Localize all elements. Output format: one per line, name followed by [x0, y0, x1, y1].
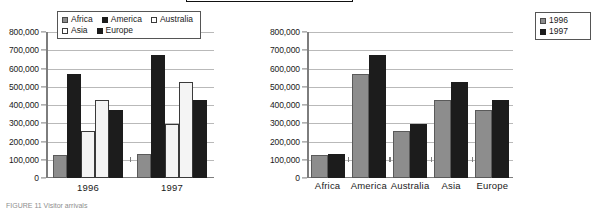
y-axis-tick-label: 300,000 [270, 118, 300, 128]
legend-swatch-icon-1996 [540, 18, 546, 24]
bar-1997-africa [328, 154, 345, 178]
x-axis-label: 1997 [130, 182, 214, 193]
x-axis-label: 1996 [46, 182, 130, 193]
legend-label-asia: Asia [71, 25, 88, 36]
y-axis-tick-label: 200,000 [9, 137, 39, 147]
legend-row-1: Africa America Australia [62, 14, 196, 25]
legend-label-1996: 1996 [549, 15, 568, 26]
legend-swatch-icon-africa [62, 17, 68, 23]
plot-area-left [46, 32, 214, 178]
x-axis-label: Europe [472, 180, 513, 191]
y-axis-tick-label: 600,000 [9, 64, 39, 74]
x-axis-separator-tick [431, 157, 432, 162]
legend-item-1997: 1997 [540, 26, 586, 37]
chart-grouped-by-year: 800,000700,000600,000500,000400,000300,0… [0, 0, 269, 211]
bar-1996-australia [393, 131, 410, 178]
bar-1997-asia [451, 82, 468, 178]
plot-area-right [307, 32, 513, 178]
bar-1997-australia [410, 124, 427, 178]
x-axis-labels-left: 19961997 [46, 182, 214, 193]
legend-swatch-icon-america [102, 17, 108, 23]
legend-item-africa: Africa [62, 14, 93, 25]
legend-label-america: America [111, 14, 142, 25]
legend-row-2: Asia Europe [62, 25, 196, 36]
bar-america-1997 [151, 55, 165, 178]
y-axis-tick-label: 600,000 [270, 64, 300, 74]
bar-group [46, 32, 130, 178]
figure-caption: FIGURE 11 Visitor arrivals [6, 202, 206, 211]
y-axis-tick-label: 500,000 [270, 82, 300, 92]
bar-europe-1997 [193, 100, 207, 178]
y-axis-tick-label: 200,000 [270, 137, 300, 147]
y-axis-tick-label: 0 [34, 173, 39, 183]
y-axis-tick-label: 700,000 [270, 45, 300, 55]
bar-africa-1997 [137, 154, 151, 178]
x-axis-labels-right: AfricaAmericaAustraliaAsiaEurope [307, 180, 513, 191]
bar-group [348, 32, 389, 178]
bars-right [307, 32, 513, 178]
x-axis-separator-tick [389, 157, 390, 162]
bar-1997-europe [492, 100, 509, 178]
y-axis-tick-label: 400,000 [270, 100, 300, 110]
y-axis-tick-label: 400,000 [9, 100, 39, 110]
legend-left: Africa America Australia Asia Europe [57, 11, 201, 39]
x-axis-label: Africa [307, 180, 348, 191]
bar-1997-america [369, 55, 386, 178]
y-axis-left: 800,000700,000600,000500,000400,000300,0… [0, 32, 46, 178]
bar-america-1996 [67, 74, 81, 178]
bar-1996-africa [311, 155, 328, 178]
x-axis-separator-tick [472, 157, 473, 162]
x-axis-label: Asia [431, 180, 472, 191]
bar-asia-1996 [95, 100, 109, 178]
bar-group [130, 32, 214, 178]
y-axis-tick-label: 800,000 [9, 27, 39, 37]
y-axis-tick-label: 300,000 [9, 118, 39, 128]
bar-1996-asia [434, 100, 451, 178]
bar-group [472, 32, 513, 178]
legend-item-1996: 1996 [540, 15, 586, 26]
legend-item-europe: Europe [97, 25, 133, 36]
legend-label-australia: Australia [160, 14, 193, 25]
bar-asia-1997 [179, 82, 193, 178]
y-axis-tick-label: 100,000 [9, 155, 39, 165]
legend-label-europe: Europe [106, 25, 133, 36]
x-axis-label: Australia [389, 180, 430, 191]
y-axis-tick-label: 0 [295, 173, 300, 183]
y-axis-tick-label: 100,000 [270, 155, 300, 165]
bar-group [431, 32, 472, 178]
legend-label-africa: Africa [71, 14, 93, 25]
x-axis-label: America [348, 180, 389, 191]
y-axis-tick-label: 500,000 [9, 82, 39, 92]
legend-swatch-icon-asia [62, 28, 68, 34]
legend-swatch-icon-1997 [540, 29, 546, 35]
x-axis-separator-tick [348, 157, 349, 162]
legend-item-australia: Australia [151, 14, 193, 25]
legend-right: 1996 1997 [535, 12, 591, 40]
legend-item-america: America [102, 14, 142, 25]
legend-label-1997: 1997 [549, 26, 568, 37]
legend-swatch-icon-australia [151, 17, 157, 23]
bar-australia-1997 [165, 124, 179, 178]
bar-australia-1996 [81, 131, 95, 178]
bar-1996-america [352, 74, 369, 178]
legend-item-asia: Asia [62, 25, 88, 36]
bar-europe-1996 [109, 110, 123, 178]
bar-africa-1996 [53, 155, 67, 178]
y-axis-tick-label: 700,000 [9, 45, 39, 55]
x-axis-separator-tick [130, 157, 131, 162]
bar-1996-europe [475, 110, 492, 178]
legend-swatch-icon-europe [97, 28, 103, 34]
chart-grouped-by-continent: 800,000700,000600,000500,000400,000300,0… [265, 0, 538, 211]
y-axis-tick-label: 800,000 [270, 27, 300, 37]
y-axis-right: 800,000700,000600,000500,000400,000300,0… [265, 32, 307, 178]
bar-group [389, 32, 430, 178]
bar-group [307, 32, 348, 178]
